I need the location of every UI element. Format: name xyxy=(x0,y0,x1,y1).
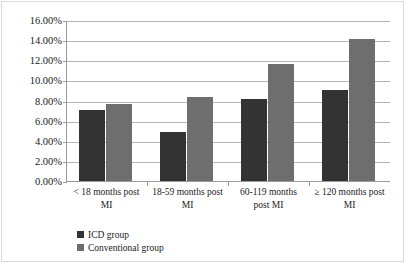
x-axis-label-line: MI xyxy=(147,199,228,212)
y-axis-tick xyxy=(63,182,67,183)
bar-group xyxy=(229,21,310,181)
y-axis-tick-label: 6.00% xyxy=(2,116,62,127)
x-axis-label-line: 18-59 months post xyxy=(147,186,228,199)
y-axis-tick-label: 12.00% xyxy=(2,56,62,67)
bar-conventional xyxy=(268,64,294,181)
y-axis-tick-label: 10.00% xyxy=(2,76,62,87)
x-axis: < 18 months postMI18-59 months postMI60-… xyxy=(66,186,390,222)
bar-icd xyxy=(79,110,105,181)
y-axis-tick-label: 16.00% xyxy=(2,16,62,27)
bar-group xyxy=(67,21,148,181)
y-axis-tick-label: 4.00% xyxy=(2,137,62,148)
bar-icd xyxy=(241,99,267,182)
bar-icd xyxy=(160,132,186,181)
legend-label: Conventional group xyxy=(88,243,164,253)
chart-legend: ICD groupConventional group xyxy=(77,228,164,254)
x-axis-label-line: ≥ 120 months post xyxy=(309,186,390,199)
legend-item: ICD group xyxy=(77,228,164,241)
x-axis-category-label: < 18 months postMI xyxy=(66,186,147,212)
bar-group xyxy=(310,21,391,181)
legend-swatch-icon xyxy=(77,231,84,238)
x-axis-label-line: < 18 months post xyxy=(66,186,147,199)
plot-area xyxy=(66,21,390,182)
y-axis-tick-label: 0.00% xyxy=(2,177,62,188)
bar-chart: 16.00%14.00%12.00%10.00%8.00%6.00%4.00%2… xyxy=(0,0,405,263)
x-axis-category-label: ≥ 120 months postMI xyxy=(309,186,390,212)
x-axis-label-line: MI xyxy=(309,199,390,212)
x-axis-label-line: 60-119 months xyxy=(228,186,309,199)
y-axis-tick-label: 8.00% xyxy=(2,96,62,107)
legend-label: ICD group xyxy=(88,230,129,240)
bar-group xyxy=(148,21,229,181)
bar-conventional xyxy=(349,39,375,181)
y-axis: 16.00%14.00%12.00%10.00%8.00%6.00%4.00%2… xyxy=(0,0,62,263)
x-axis-label-line: post MI xyxy=(228,199,309,212)
legend-item: Conventional group xyxy=(77,241,164,254)
legend-swatch-icon xyxy=(77,244,84,251)
x-axis-category-label: 60-119 monthspost MI xyxy=(228,186,309,212)
x-axis-label-line: MI xyxy=(66,199,147,212)
x-axis-category-label: 18-59 months postMI xyxy=(147,186,228,212)
bar-conventional xyxy=(187,97,213,181)
bar-icd xyxy=(322,90,348,181)
y-axis-tick-label: 2.00% xyxy=(2,157,62,168)
y-axis-tick-label: 14.00% xyxy=(2,36,62,47)
bar-conventional xyxy=(106,104,132,181)
